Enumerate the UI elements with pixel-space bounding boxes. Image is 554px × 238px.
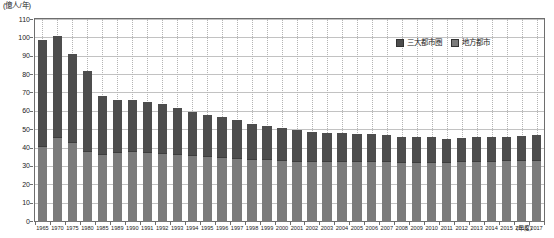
x-axis-tick-mark <box>484 222 485 225</box>
bar-column[interactable] <box>367 134 376 222</box>
legend-swatch-icon <box>396 39 404 47</box>
bar-column[interactable] <box>83 71 92 222</box>
bar-column[interactable] <box>427 137 436 222</box>
legend-swatch-icon <box>451 39 459 47</box>
bar-segment-major-metro <box>382 135 391 162</box>
bar-column[interactable] <box>143 102 152 222</box>
x-axis-tick-mark <box>469 222 470 225</box>
bar-column[interactable] <box>412 137 421 222</box>
bar-segment-major-metro <box>502 137 511 161</box>
bar-column[interactable] <box>487 137 496 222</box>
bar-column[interactable] <box>337 133 346 222</box>
x-axis-tick-label: 1997 <box>230 224 245 232</box>
x-axis-tick-mark <box>394 222 395 225</box>
x-axis-tick-label: 1998 <box>245 224 260 232</box>
x-axis-tick-mark <box>260 222 261 225</box>
y-axis-tick-label: 10 <box>0 199 30 206</box>
legend-item[interactable]: 三大都市圏 <box>396 38 442 47</box>
bar-segment-major-metro <box>158 104 167 153</box>
bar-column[interactable] <box>397 137 406 222</box>
bar-segment-regional-city <box>367 161 376 222</box>
bar-column[interactable] <box>502 137 511 222</box>
bar-column[interactable] <box>98 96 107 222</box>
bar-column[interactable] <box>38 40 47 222</box>
y-axis-tick-mark <box>30 129 33 130</box>
bar-column[interactable] <box>457 138 466 222</box>
bar-column[interactable] <box>173 108 182 222</box>
bar-segment-major-metro <box>38 40 47 146</box>
bar-column[interactable] <box>247 124 256 222</box>
x-axis-tick-mark <box>304 222 305 225</box>
bar-column[interactable] <box>277 128 286 222</box>
bar-segment-major-metro <box>128 100 137 151</box>
x-axis-tick-mark <box>50 222 51 225</box>
bar-segment-regional-city <box>217 157 226 222</box>
y-axis-tick-label: 40 <box>0 144 30 151</box>
bar-column[interactable] <box>382 135 391 222</box>
bar-column[interactable] <box>322 133 331 222</box>
y-axis-tick-mark <box>30 148 33 149</box>
bar-column[interactable] <box>53 36 62 222</box>
bar-column[interactable] <box>307 132 316 222</box>
y-axis-tick-mark <box>30 74 33 75</box>
x-axis-tick-mark <box>245 222 246 225</box>
bar-column[interactable] <box>532 135 541 222</box>
x-axis-tick-mark <box>155 222 156 225</box>
x-axis-tick-label: 2011 <box>439 224 454 232</box>
bar-segment-regional-city <box>472 161 481 222</box>
x-axis-tick-label: 1975 <box>65 224 80 232</box>
bar-column[interactable] <box>442 139 451 222</box>
bar-segment-major-metro <box>83 71 92 151</box>
bar-column[interactable] <box>158 104 167 222</box>
y-axis-tick-mark <box>30 37 33 38</box>
x-axis-tick-label: 1999 <box>260 224 275 232</box>
x-axis-tick-mark <box>215 222 216 225</box>
x-axis-tick-label: 2006 <box>364 224 379 232</box>
y-axis-tick-mark <box>30 56 33 57</box>
bar-column[interactable] <box>262 126 271 222</box>
bar-segment-regional-city <box>53 137 62 222</box>
x-axis-tick-label: 2004 <box>334 224 349 232</box>
bar-column[interactable] <box>203 115 212 223</box>
bar-segment-regional-city <box>532 160 541 222</box>
x-axis-tick-label: 2012 <box>454 224 469 232</box>
bar-segment-major-metro <box>247 124 256 159</box>
bar-segment-major-metro <box>53 36 62 137</box>
bar-segment-regional-city <box>38 146 47 222</box>
bar-column[interactable] <box>352 134 361 222</box>
y-axis-tick-label: 80 <box>0 71 30 78</box>
bar-segment-regional-city <box>128 151 137 222</box>
bar-column[interactable] <box>217 117 226 222</box>
x-axis-tick-label: 2009 <box>409 224 424 232</box>
bar-segment-major-metro <box>217 117 226 156</box>
bar-segment-regional-city <box>322 161 331 222</box>
y-axis-tick-mark <box>30 184 33 185</box>
bar-segment-regional-city <box>143 152 152 222</box>
x-axis-tick-label: 1992 <box>155 224 170 232</box>
bar-column[interactable] <box>517 136 526 222</box>
legend-item[interactable]: 地方都市 <box>451 38 490 47</box>
bar-segment-major-metro <box>203 115 212 156</box>
bar-segment-regional-city <box>292 161 301 222</box>
y-axis-tick-label: 100 <box>0 34 30 41</box>
bar-column[interactable] <box>232 120 241 222</box>
y-axis-tick-label: 90 <box>0 52 30 59</box>
x-axis-tick-mark <box>275 222 276 225</box>
bar-column[interactable] <box>292 130 301 222</box>
bar-column[interactable] <box>113 100 122 222</box>
bar-segment-regional-city <box>232 158 241 222</box>
y-axis-tick-mark <box>30 111 33 112</box>
y-axis-tick-label: 50 <box>0 126 30 133</box>
chart-container: (億人/年) 0102030405060708090100110 三大都市圏地方… <box>0 0 554 238</box>
bar-column[interactable] <box>188 112 197 222</box>
bar-segment-major-metro <box>337 133 346 161</box>
x-axis-tick-mark <box>544 222 545 225</box>
x-axis-tick-mark <box>319 222 320 225</box>
bar-column[interactable] <box>472 137 481 222</box>
x-axis-tick-label: 1970 <box>50 224 65 232</box>
bar-segment-major-metro <box>188 112 197 155</box>
bar-column[interactable] <box>68 54 77 222</box>
bar-column[interactable] <box>128 100 137 222</box>
x-axis-tick-label: 2008 <box>394 224 409 232</box>
bar-segment-regional-city <box>412 162 421 222</box>
